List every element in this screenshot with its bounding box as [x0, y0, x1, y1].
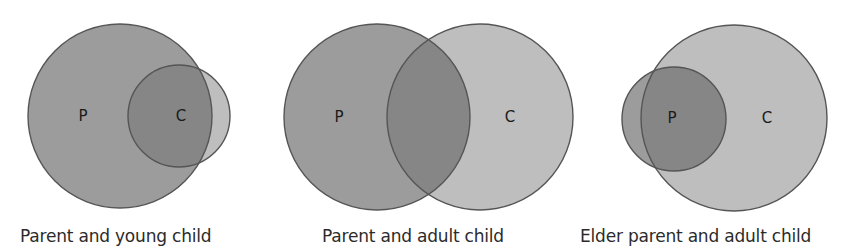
caption-parent-young-child: Parent and young child [20, 226, 211, 246]
caption-elder-parent-adult-child: Elder parent and adult child [580, 226, 811, 246]
venn-parent-adult-child: P C [284, 24, 573, 210]
venn-diagrams-canvas: P C P C P C [0, 0, 856, 250]
child-label: C [762, 109, 772, 127]
caption-parent-adult-child: Parent and adult child [322, 226, 504, 246]
parent-label: P [334, 108, 343, 126]
child-label: C [505, 108, 515, 126]
parent-label: P [667, 109, 676, 127]
venn-elder-parent-adult-child: P C [622, 25, 827, 211]
venn-parent-young-child: P C [28, 24, 230, 208]
parent-label: P [78, 107, 87, 125]
child-label: C [176, 107, 186, 125]
